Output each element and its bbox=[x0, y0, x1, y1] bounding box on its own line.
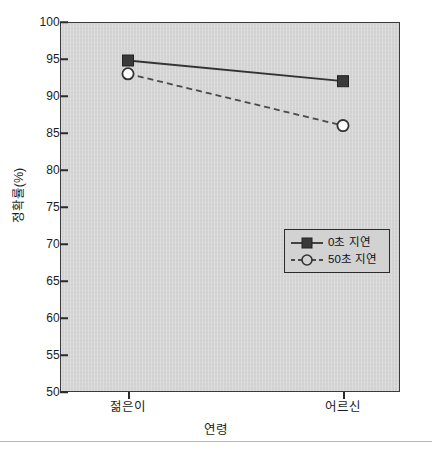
legend-item-50sec: 50초 지연 bbox=[290, 251, 384, 268]
y-tick-mark bbox=[60, 391, 68, 393]
y-tick-label: 95 bbox=[26, 53, 60, 65]
y-axis-title: 정확률(%) bbox=[8, 131, 27, 261]
y-tick-label: 90 bbox=[26, 90, 60, 102]
y-tick-mark bbox=[60, 317, 68, 319]
x-axis-title: 연령 bbox=[0, 419, 432, 438]
y-tick-label: 50 bbox=[26, 386, 60, 398]
y-tick-label: 80 bbox=[26, 164, 60, 176]
legend-label-50sec: 50초 지연 bbox=[328, 254, 377, 266]
y-tick-label: 85 bbox=[26, 127, 60, 139]
y-tick-mark bbox=[60, 21, 68, 23]
y-tick-mark bbox=[60, 58, 68, 60]
legend: 0초 지연 50초 지연 bbox=[284, 229, 390, 273]
legend-marker-open-circle-icon bbox=[290, 253, 324, 267]
bottom-divider bbox=[0, 441, 432, 442]
y-tick-mark bbox=[60, 354, 68, 356]
y-tick-mark bbox=[60, 206, 68, 208]
plot-background-texture bbox=[61, 23, 399, 391]
y-tick-mark bbox=[60, 280, 68, 282]
chart-figure: 100 95 90 85 80 75 70 65 60 55 50 정확률(%)… bbox=[0, 0, 432, 458]
x-tick-label-young: 젊은이 bbox=[110, 396, 146, 415]
x-tick-label-elderly: 어르신 bbox=[325, 396, 361, 415]
y-tick-label: 60 bbox=[26, 312, 60, 324]
legend-label-0sec: 0초 지연 bbox=[328, 237, 371, 249]
legend-marker-filled-square-icon bbox=[290, 236, 324, 250]
y-tick-label: 100 bbox=[26, 16, 60, 28]
y-tick-label: 65 bbox=[26, 275, 60, 287]
plot-area bbox=[60, 22, 400, 392]
y-tick-mark bbox=[60, 169, 68, 171]
legend-item-0sec: 0초 지연 bbox=[290, 234, 384, 251]
y-tick-mark bbox=[60, 95, 68, 97]
y-tick-label: 70 bbox=[26, 238, 60, 250]
y-tick-mark bbox=[60, 243, 68, 245]
y-tick-mark bbox=[60, 132, 68, 134]
y-tick-label: 75 bbox=[26, 201, 60, 213]
y-tick-label: 55 bbox=[26, 349, 60, 361]
